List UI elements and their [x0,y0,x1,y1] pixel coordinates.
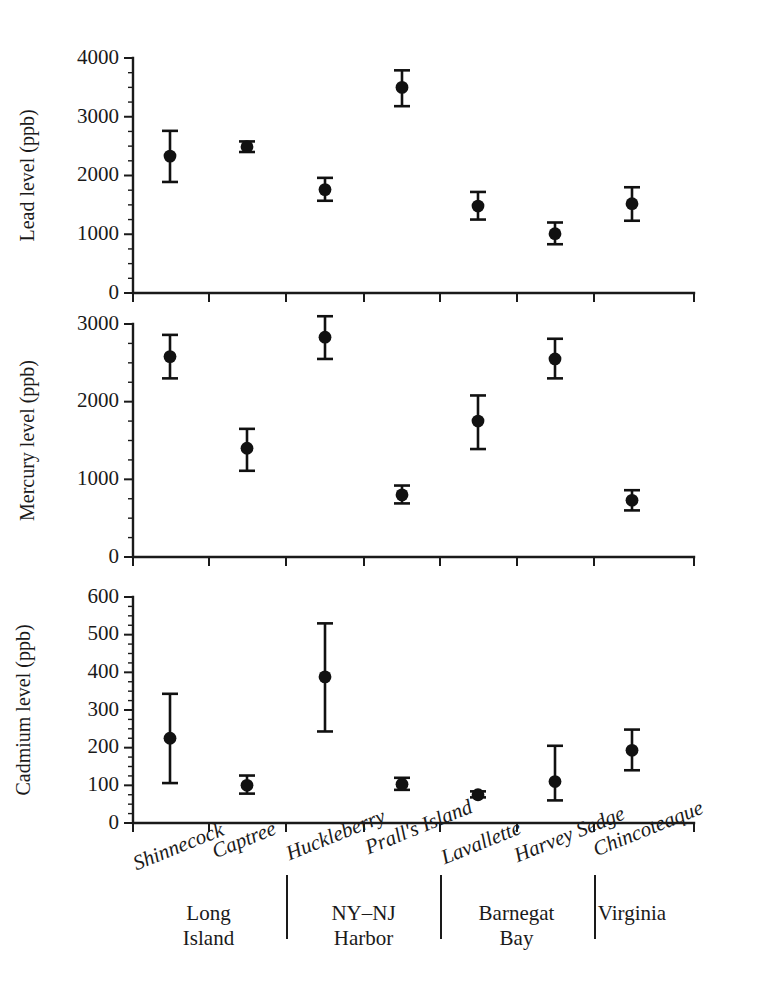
marker-cadmium-4 [472,788,485,801]
datapoint-mercury-0 [162,335,178,378]
marker-mercury-3 [396,488,409,501]
y-tick-label-cadmium-200: 200 [88,734,120,758]
y-axis-title-cadmium: Cadmium level (ppb) [12,624,35,795]
datapoint-lead-4 [470,192,486,220]
y-tick-label-mercury-1000: 1000 [77,466,119,490]
axis-lines-cadmium [133,597,694,823]
y-tick-label-lead-0: 0 [109,280,120,304]
marker-cadmium-6 [626,744,639,757]
y-tick-label-mercury-0: 0 [109,544,120,568]
datapoint-mercury-2 [317,316,333,359]
y-tick-label-cadmium-600: 600 [88,584,120,608]
y-axis-title-mercury: Mercury level (ppb) [16,360,39,521]
axis-lines-lead [133,58,694,293]
marker-cadmium-0 [164,732,177,745]
marker-mercury-5 [549,353,562,366]
region-divider-0 [286,875,288,939]
marker-lead-2 [319,183,332,196]
datapoint-lead-2 [317,178,333,201]
region-label-3: Virginia [562,901,702,926]
y-tick-label-lead-1000: 1000 [77,221,119,245]
y-tick-label-cadmium-500: 500 [88,621,120,645]
datapoint-cadmium-1 [239,776,255,794]
marker-lead-3 [396,81,409,94]
y-tick-label-lead-2000: 2000 [77,162,119,186]
datapoint-mercury-3 [394,486,410,504]
y-tick-label-mercury-3000: 3000 [77,311,119,335]
marker-lead-5 [549,227,562,240]
y-tick-label-cadmium-100: 100 [88,772,120,796]
datapoint-lead-1 [239,140,255,153]
region-divider-1 [440,875,442,939]
y-tick-label-cadmium-300: 300 [88,697,120,721]
region-label-line1-0: Long [186,901,230,925]
marker-lead-1 [241,140,254,153]
datapoint-cadmium-0 [162,694,178,783]
datapoint-cadmium-2 [317,623,333,731]
region-label-line1-1: NY–NJ [331,901,395,925]
region-label-1: NY–NJHarbor [294,901,434,951]
region-label-line2-2: Bay [447,926,587,951]
datapoint-cadmium-3 [394,778,410,791]
marker-cadmium-3 [396,778,409,791]
region-group-row: LongIslandNY–NJHarborBarnegatBayVirginia [0,893,774,963]
marker-cadmium-1 [241,779,254,792]
datapoint-mercury-6 [624,490,640,510]
marker-cadmium-5 [549,775,562,788]
datapoint-mercury-5 [547,339,563,379]
region-label-line2-1: Harbor [294,926,434,951]
datapoint-lead-0 [162,131,178,182]
datapoint-cadmium-6 [624,730,640,771]
y-tick-label-lead-4000: 4000 [77,45,119,69]
region-label-line1-3: Virginia [598,901,666,925]
datapoint-cadmium-4 [470,788,486,801]
marker-lead-6 [626,197,639,210]
datapoint-cadmium-5 [547,746,563,801]
datapoint-mercury-4 [470,395,486,449]
datapoint-lead-6 [624,187,640,220]
region-label-line1-2: Barnegat [479,901,555,925]
y-axis-title-lead: Lead level (ppb) [16,109,39,241]
region-label-line2-0: Island [139,926,279,951]
y-tick-label-mercury-2000: 2000 [77,388,119,412]
y-tick-label-cadmium-400: 400 [88,659,120,683]
axis-lines-mercury [133,324,694,557]
datapoint-lead-3 [394,70,410,106]
marker-cadmium-2 [319,670,332,683]
datapoint-lead-5 [547,223,563,245]
figure-root: 01000200030004000Lead level (ppb) 010002… [0,0,774,991]
marker-lead-0 [164,150,177,163]
marker-mercury-0 [164,350,177,363]
y-tick-label-lead-3000: 3000 [77,104,119,128]
marker-mercury-2 [319,331,332,344]
region-label-0: LongIsland [139,901,279,951]
marker-mercury-1 [241,442,254,455]
datapoint-mercury-1 [239,429,255,471]
marker-mercury-6 [626,494,639,507]
marker-lead-4 [472,200,485,213]
marker-mercury-4 [472,415,485,428]
